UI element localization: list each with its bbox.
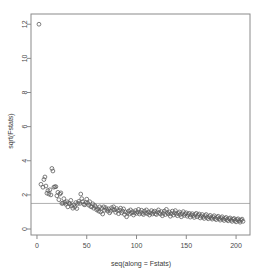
- x-tick-label: 200: [230, 242, 242, 249]
- x-tick-label: 0: [35, 242, 39, 249]
- x-tick-label: 150: [180, 242, 192, 249]
- y-tick-label: 0: [21, 227, 28, 231]
- y-tick-label: 4: [21, 159, 28, 163]
- y-tick-label: 8: [21, 90, 28, 94]
- y-tick-label: 6: [21, 125, 28, 129]
- x-axis-title: seq(along = Fstats): [111, 260, 171, 268]
- x-tick-label: 100: [131, 242, 143, 249]
- y-axis-title: sqrt(Fstats): [7, 113, 15, 148]
- plot-window: 050100150200 024681012 seq(along = Fstat…: [0, 0, 273, 278]
- y-tick-label: 2: [21, 193, 28, 197]
- y-tick-label: 10: [21, 54, 28, 62]
- x-tick-label: 50: [83, 242, 91, 249]
- y-tick-label: 12: [21, 20, 28, 28]
- fstats-scatter-plot: 050100150200 024681012 seq(along = Fstat…: [0, 0, 273, 278]
